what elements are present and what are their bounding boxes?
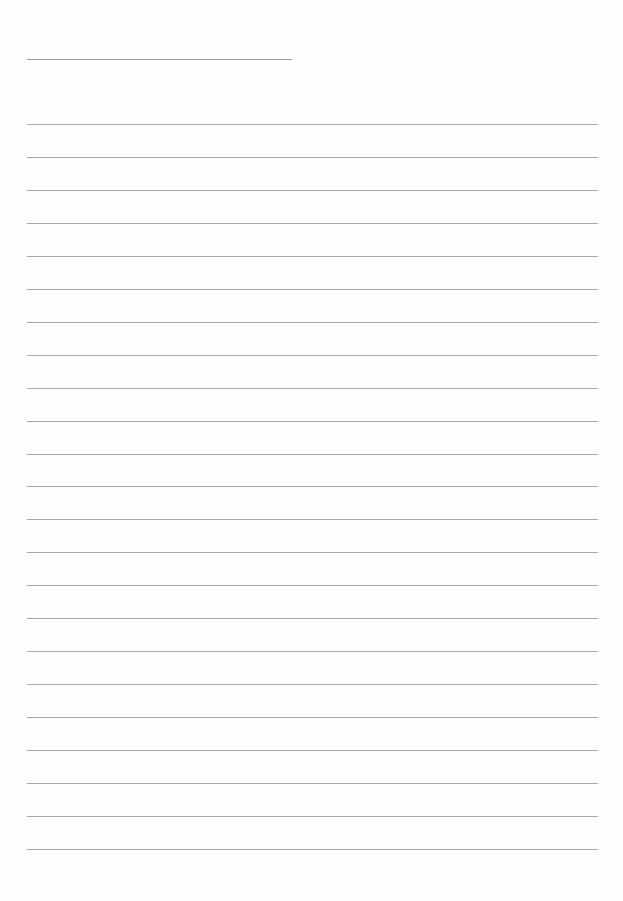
ruled-line xyxy=(27,783,598,784)
ruled-line xyxy=(27,124,598,125)
ruled-line xyxy=(27,684,598,685)
ruled-line xyxy=(27,388,598,389)
ruled-lines xyxy=(0,0,623,901)
ruled-line xyxy=(27,585,598,586)
ruled-line xyxy=(27,552,598,553)
ruled-line xyxy=(27,519,598,520)
ruled-line xyxy=(27,618,598,619)
lined-paper-page xyxy=(0,0,623,901)
ruled-line xyxy=(27,750,598,751)
ruled-line xyxy=(27,421,598,422)
ruled-line xyxy=(27,256,598,257)
ruled-line xyxy=(27,717,598,718)
ruled-line xyxy=(27,190,598,191)
ruled-line xyxy=(27,849,598,850)
ruled-line xyxy=(27,355,598,356)
ruled-line xyxy=(27,816,598,817)
ruled-line xyxy=(27,486,598,487)
ruled-line xyxy=(27,223,598,224)
ruled-line xyxy=(27,322,598,323)
ruled-line xyxy=(27,651,598,652)
ruled-line xyxy=(27,289,598,290)
ruled-line xyxy=(27,157,598,158)
ruled-line xyxy=(27,454,598,455)
